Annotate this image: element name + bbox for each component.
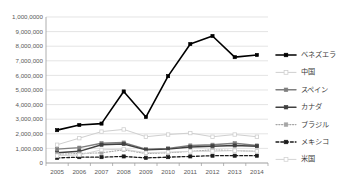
- x-tick-label: 2007: [95, 168, 109, 175]
- data-point-marker: [56, 148, 59, 151]
- series-line: [57, 36, 257, 130]
- data-point-marker: [167, 75, 170, 78]
- data-point-marker: [144, 151, 147, 154]
- data-point-marker: [189, 145, 192, 148]
- y-tick-label: 1,000,0000: [12, 13, 44, 20]
- legend-marker: [284, 105, 288, 109]
- series-line: [57, 129, 257, 144]
- data-point-marker: [144, 135, 147, 138]
- data-point-marker: [78, 123, 81, 126]
- data-point-marker: [122, 155, 125, 158]
- data-point-marker: [100, 148, 103, 151]
- legend-marker: [284, 158, 288, 162]
- data-point-marker: [189, 42, 192, 45]
- data-point-marker: [189, 131, 192, 134]
- data-point-marker: [255, 53, 258, 56]
- series-5: [56, 154, 259, 159]
- legend-marker: [284, 53, 288, 57]
- x-tick-label: 2013: [228, 168, 242, 175]
- data-point-marker: [55, 143, 58, 146]
- legend-item-6[interactable]: 米国: [276, 154, 315, 163]
- series-0: [56, 34, 259, 131]
- data-point-marker: [211, 154, 214, 157]
- data-series-group: [55, 34, 258, 159]
- legend-marker: [284, 88, 288, 92]
- data-point-marker: [78, 146, 81, 149]
- legend-label: ベネズエラ: [301, 50, 336, 59]
- x-tick-label: 2005: [50, 168, 64, 175]
- legend-item-2[interactable]: スペイン: [276, 85, 328, 94]
- data-point-marker: [166, 133, 169, 136]
- data-point-marker: [100, 143, 103, 146]
- data-point-marker: [255, 154, 258, 157]
- y-tick-label: 7,000,000: [15, 57, 43, 64]
- legend-label: メキシコ: [301, 137, 329, 146]
- legend-item-1[interactable]: 中国: [276, 67, 315, 76]
- data-point-marker: [233, 144, 236, 147]
- line-chart: 01,000,0002,000,0003,000,0004,000,0005,0…: [0, 0, 357, 185]
- data-point-marker: [189, 155, 192, 158]
- data-point-marker: [233, 154, 236, 157]
- data-point-marker: [100, 156, 103, 159]
- data-point-marker: [100, 130, 103, 133]
- chart-legend: ベネズエラ中国スペインカナダブラジルメキシコ米国: [276, 50, 336, 163]
- legend-label: 中国: [301, 67, 315, 76]
- data-point-marker: [233, 149, 236, 152]
- data-point-marker: [233, 133, 236, 136]
- chart-canvas: 01,000,0002,000,0003,000,0004,000,0005,0…: [0, 0, 357, 185]
- data-point-marker: [144, 156, 147, 159]
- data-point-marker: [189, 150, 192, 153]
- y-tick-label: 4,000,000: [15, 101, 43, 108]
- data-point-marker: [167, 156, 170, 159]
- legend-item-3[interactable]: カナダ: [276, 102, 322, 111]
- y-tick-label: 5,000,000: [15, 86, 43, 93]
- data-point-marker: [122, 128, 125, 131]
- data-point-marker: [255, 135, 258, 138]
- data-point-marker: [211, 145, 214, 148]
- legend-label: スペイン: [301, 85, 328, 94]
- legend-label: カナダ: [301, 102, 322, 111]
- series-line: [57, 156, 257, 158]
- y-tick-label: 6,000,000: [15, 72, 43, 79]
- y-tick-label: 1,000,000: [15, 145, 43, 152]
- y-tick-label: 8,000,000: [15, 42, 43, 49]
- data-point-marker: [100, 122, 103, 125]
- y-tick-label: 0: [40, 159, 44, 166]
- legend-label: ブラジル: [301, 120, 329, 129]
- x-axis-tickmarks: [46, 163, 268, 166]
- x-tick-label: 2011: [184, 168, 198, 175]
- data-point-marker: [211, 150, 214, 153]
- x-tick-label: 2012: [206, 168, 220, 175]
- data-point-marker: [78, 136, 81, 139]
- y-tick-label: 3,000,000: [15, 115, 43, 122]
- legend-marker: [284, 123, 288, 127]
- data-point-marker: [255, 150, 258, 153]
- legend-item-0[interactable]: ベネズエラ: [276, 50, 336, 59]
- data-point-marker: [233, 56, 236, 59]
- x-tick-label: 2014: [250, 168, 264, 175]
- data-point-marker: [211, 34, 214, 37]
- data-point-marker: [166, 150, 169, 153]
- data-point-marker: [144, 115, 147, 118]
- gridlines: [46, 17, 268, 163]
- legend-item-4[interactable]: ブラジル: [276, 120, 329, 129]
- x-tick-label: 2006: [72, 168, 86, 175]
- data-point-marker: [78, 153, 81, 156]
- legend-marker: [284, 140, 288, 144]
- data-point-marker: [55, 154, 58, 157]
- data-point-marker: [122, 90, 125, 93]
- data-point-marker: [122, 142, 125, 145]
- data-point-marker: [56, 129, 59, 132]
- y-tick-label: 2,000,000: [15, 130, 43, 137]
- y-axis-tick-labels: 01,000,0002,000,0003,000,0004,000,0005,0…: [12, 13, 44, 166]
- legend-marker: [284, 71, 288, 75]
- data-point-marker: [255, 145, 258, 148]
- x-tick-label: 2009: [139, 168, 153, 175]
- data-point-marker: [122, 147, 125, 150]
- x-axis-tick-labels: 2005200620072008200920102011201220132014: [50, 168, 264, 175]
- x-tick-label: 2010: [161, 168, 175, 175]
- legend-item-5[interactable]: メキシコ: [276, 137, 329, 146]
- data-point-marker: [211, 135, 214, 138]
- y-tick-label: 9,000,000: [15, 28, 43, 35]
- legend-label: 米国: [301, 154, 315, 163]
